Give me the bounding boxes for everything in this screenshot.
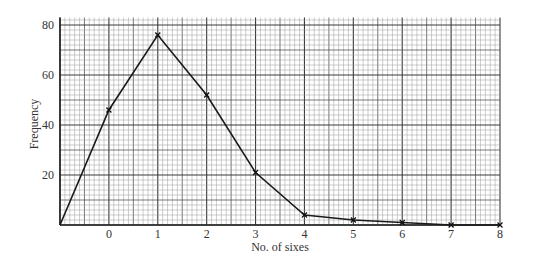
x-tick-label: 7 bbox=[448, 227, 454, 241]
x-tick-label: 5 bbox=[350, 227, 356, 241]
frequency-polygon-chart: 012345678 20406080 No. of sixes Frequenc… bbox=[0, 0, 554, 266]
x-axis-tick-labels: 012345678 bbox=[106, 227, 503, 241]
x-tick-label: 1 bbox=[155, 227, 161, 241]
x-tick-label: 4 bbox=[301, 227, 307, 241]
x-tick-label: 6 bbox=[399, 227, 405, 241]
y-tick-label: 60 bbox=[42, 68, 54, 82]
y-tick-label: 20 bbox=[42, 168, 54, 182]
x-tick-label: 8 bbox=[497, 227, 503, 241]
x-axis-label: No. of sixes bbox=[251, 240, 309, 254]
x-tick-label: 2 bbox=[204, 227, 210, 241]
y-axis-tick-labels: 20406080 bbox=[42, 18, 54, 182]
y-tick-label: 40 bbox=[42, 118, 54, 132]
x-tick-label: 3 bbox=[253, 227, 259, 241]
y-tick-label: 80 bbox=[42, 18, 54, 32]
y-axis-label: Frequency bbox=[27, 99, 41, 150]
x-tick-label: 0 bbox=[106, 227, 112, 241]
